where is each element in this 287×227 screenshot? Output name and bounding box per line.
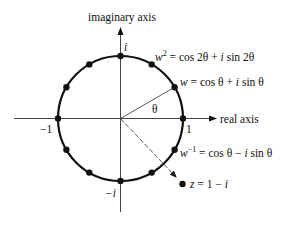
tick-one: 1 [186,123,192,135]
tick-minus-one: −1 [40,123,52,135]
w-label: w = cos θ + i sin θ [180,76,264,88]
vector-to-z [121,119,177,178]
radius-to-w [121,87,175,118]
imaginary-axis-label: imaginary axis [88,11,157,24]
unit-circle-diagram: imaginary axis real axis i −i 1 −1 θ w2 … [0,0,287,227]
z-label: z = 1 − i [189,178,228,190]
real-axis-label: real axis [220,113,259,125]
w-squared-label: w2 = cos 2θ + i sin 2θ [155,49,255,63]
z-point [179,181,185,187]
w-inverse-label: w−1 = cos θ − i sin θ [180,145,273,159]
tick-i: i [124,41,127,53]
tick-minus-i: −i [105,187,116,199]
angle-theta-label: θ [152,103,158,115]
